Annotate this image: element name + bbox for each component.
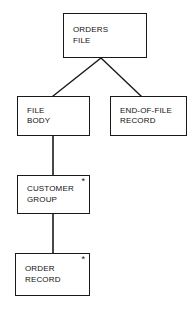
node-orders-file-line-1: ORDERS bbox=[73, 25, 108, 36]
node-customer-group-line-2: GROUP bbox=[27, 195, 57, 206]
node-customer-group[interactable]: * CUSTOMER GROUP bbox=[17, 175, 90, 214]
iteration-asterisk-icon-customer-group: * bbox=[81, 177, 85, 186]
node-orders-file[interactable]: ORDERS FILE bbox=[63, 13, 147, 58]
node-end-of-file-record[interactable]: END-OF-FILE RECORD bbox=[110, 96, 187, 136]
node-file-body-line-1: FILE bbox=[27, 106, 45, 117]
edge-orders-to-file-body bbox=[53, 58, 101, 96]
node-order-record-line-2: RECORD bbox=[25, 275, 61, 286]
iteration-asterisk-icon-order-record: * bbox=[81, 255, 85, 264]
node-customer-group-line-1: CUSTOMER bbox=[27, 184, 74, 195]
node-order-record[interactable]: * ORDER RECORD bbox=[15, 253, 90, 296]
node-end-of-file-record-line-1: END-OF-FILE bbox=[120, 106, 172, 117]
node-order-record-line-1: ORDER bbox=[25, 264, 55, 275]
node-file-body[interactable]: FILE BODY bbox=[17, 96, 90, 136]
node-end-of-file-record-line-2: RECORD bbox=[120, 116, 156, 127]
structure-diagram-canvas: ORDERS FILE FILE BODY END-OF-FILE RECORD… bbox=[0, 0, 194, 323]
node-orders-file-line-2: FILE bbox=[73, 36, 91, 47]
node-file-body-line-2: BODY bbox=[27, 116, 50, 127]
edge-orders-to-eof-record bbox=[101, 58, 141, 96]
